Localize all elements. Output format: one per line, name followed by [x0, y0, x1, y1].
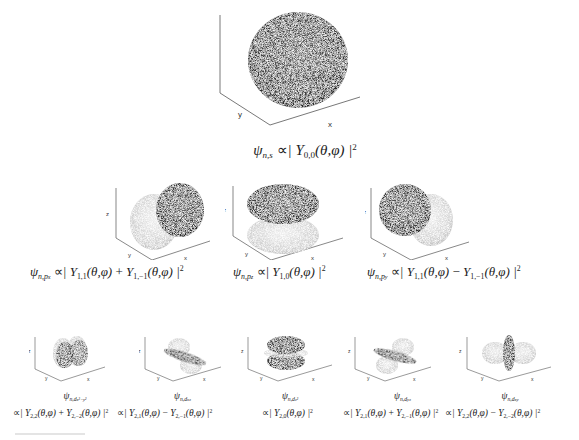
- z-axis-label: z: [29, 348, 31, 354]
- x-axis-label: x: [328, 120, 332, 129]
- y-axis-label: y: [383, 251, 386, 257]
- panel-dxy-orbital: z y x ψn,dxy ∝| Y2,2(θ,φ) − Y2,−2(θ,φ) |…: [455, 333, 579, 433]
- x-axis-label: x: [203, 376, 206, 382]
- plot-dz2-orbital: z y x: [240, 333, 335, 383]
- x-axis-label: x: [87, 376, 90, 382]
- plot-dxy-orbital: z y x: [455, 333, 555, 383]
- caption-dx2y2-psi: ψn,dx²−y²: [5, 391, 145, 402]
- caption-dxz-expr: ∝| Y2,1(θ,φ) − Y2,−1(θ,φ) |2: [117, 407, 212, 419]
- caption-s: ψn,s ∝| Y0,0(θ,φ) |2: [210, 141, 400, 160]
- z-axis-label: z: [139, 348, 141, 354]
- panel-dyz-orbital: z y x ψn,dyz ∝| Y2,1(θ,φ) + Y2,−1(θ,φ) |…: [345, 333, 460, 433]
- plot-py-orbital: z y x: [365, 180, 475, 260]
- caption-dyz-psi: ψn,dyz: [345, 391, 460, 402]
- dark-lobe: [379, 184, 431, 236]
- panel-dz2-orbital: z y x ψn,dz² ∝| Y2,0(θ,φ) |2: [240, 333, 345, 433]
- panel-pz-orbital: z y x ψn,pz ∝| Y1,0(θ,φ) |2: [215, 180, 365, 310]
- caption-px: ψn,px ∝| Y1,1(θ,φ) + Y1,−1(θ,φ) |2: [30, 264, 184, 281]
- caption-dz2-psi: ψn,dz²: [240, 391, 340, 402]
- caption-dxy-expr: ∝| Y2,2(θ,φ) − Y2,−2(θ,φ) |2: [445, 407, 540, 419]
- dark-lobe: [267, 336, 305, 354]
- dark-lobe: [70, 340, 88, 366]
- y-axis-label: y: [238, 110, 242, 119]
- dark-lobe: [503, 335, 515, 371]
- caption-py: ψn,py ∝| Y1,1(θ,φ) − Y1,−1(θ,φ) |2: [367, 264, 521, 281]
- z-axis-label: z: [225, 207, 226, 213]
- dark-lobe: [247, 184, 319, 224]
- plot-dyz-orbital: z y x: [347, 333, 437, 383]
- panel-s-orbital: z y x ψn,s ∝| Y0,0(θ,φ) |2: [210, 5, 380, 135]
- y-axis-label: y: [45, 375, 48, 381]
- y-axis-label: y: [260, 375, 263, 381]
- x-axis-label: x: [312, 376, 315, 382]
- caption-dyz-expr: ∝| Y2,1(θ,φ) + Y2,−1(θ,φ) |2: [343, 407, 438, 419]
- plot-px-orbital: z y x: [90, 180, 220, 260]
- panel-dx2y2-orbital: z y x ψn,dx²−y² ∝| Y2,2(θ,φ) + Y2,−2(θ,φ…: [5, 333, 120, 433]
- caption-dz2-expr: ∝| Y2,0(θ,φ) |2: [262, 407, 313, 419]
- z-axis-label: z: [348, 348, 351, 354]
- plot-pz-orbital: z y x: [225, 180, 345, 260]
- z-axis-label: z: [459, 348, 462, 354]
- z-axis-label: z: [241, 348, 244, 354]
- x-axis-label: x: [445, 255, 448, 260]
- x-axis-label: x: [184, 255, 187, 260]
- y-axis-label: y: [481, 375, 484, 381]
- caption-dx2y2-expr: ∝| Y2,2(θ,φ) + Y2,−2(θ,φ) |2: [13, 407, 108, 419]
- dark-lobe: [156, 183, 204, 237]
- panel-dxz-orbital: z y x ψn,dxz ∝| Y2,1(θ,φ) − Y2,−1(θ,φ) |…: [125, 333, 240, 433]
- footer-divider: [15, 433, 85, 435]
- y-axis-label: y: [367, 375, 370, 381]
- x-axis-label: x: [311, 255, 314, 260]
- caption-dxz-psi: ψn,dxz: [125, 391, 240, 402]
- x-axis-label: x: [413, 376, 416, 382]
- z-axis-label: z: [365, 209, 366, 215]
- panel-px-orbital: z y x ψn,px ∝| Y1,1(θ,φ) + Y1,−1(θ,φ) |2: [20, 180, 220, 310]
- y-axis-label: y: [128, 252, 131, 258]
- z-axis-label: z: [106, 211, 109, 217]
- s-orbital-sphere: [248, 12, 348, 108]
- y-axis-label: y: [245, 251, 248, 257]
- x-axis-label: x: [531, 376, 534, 382]
- plot-dxz-orbital: z y x: [139, 333, 224, 383]
- plot-s-orbital: z y x: [210, 5, 380, 135]
- y-axis-label: y: [157, 375, 160, 381]
- caption-dxy-psi: ψn,dxy: [455, 391, 565, 402]
- panel-py-orbital: z y x ψn,py ∝| Y1,1(θ,φ) − Y1,−1(θ,φ) |2: [365, 180, 575, 310]
- caption-pz: ψn,pz ∝| Y1,0(θ,φ) |2: [233, 264, 326, 281]
- plot-dx2y2-orbital: z y x: [29, 333, 109, 383]
